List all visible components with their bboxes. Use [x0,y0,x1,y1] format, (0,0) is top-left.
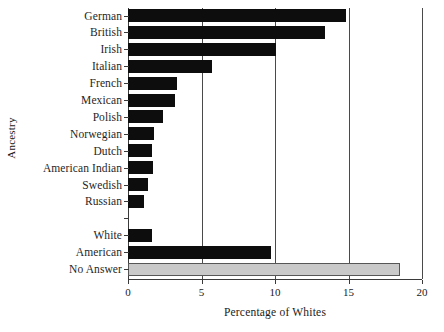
y-tick-mark [124,201,129,202]
y-tick-mark [124,83,129,84]
bar [128,229,152,242]
bar [128,110,163,123]
category-label: Dutch [0,145,122,157]
bar [128,161,153,174]
category-label: Italian [0,60,122,72]
y-tick-mark [124,16,129,17]
x-tick-label: 0 [113,286,143,298]
y-tick-mark [124,252,129,253]
category-label: German [0,10,122,22]
category-label: American [0,246,122,258]
gridline [422,8,423,279]
bar [128,144,152,157]
bar [128,94,175,107]
bar [128,246,271,259]
bar [128,43,276,56]
bar [128,60,212,73]
category-label: Polish [0,111,122,123]
y-tick-mark [124,235,129,236]
x-tick-mark [422,280,423,284]
x-tick-mark [128,280,129,284]
category-label: Swedish [0,179,122,191]
category-label: No Answer [0,263,122,275]
bar [128,127,154,140]
bar [128,26,325,39]
x-tick-label: 10 [260,286,290,298]
y-tick-mark [124,49,129,50]
category-label: Russian [0,195,122,207]
x-tick-label: 20 [407,286,437,298]
y-tick-mark [124,100,129,101]
category-label: Mexican [0,94,122,106]
y-tick-mark [124,117,129,118]
gridline [349,8,350,279]
x-tick-mark [275,280,276,284]
category-label: British [0,26,122,38]
bar [128,263,400,276]
y-tick-mark [124,66,129,67]
x-tick-label: 5 [187,286,217,298]
y-tick-mark [124,32,129,33]
x-axis-title: Percentage of Whites [128,306,422,318]
category-label: Irish [0,43,122,55]
bar [128,178,148,191]
y-tick-mark [124,134,129,135]
category-label: White [0,229,122,241]
y-tick-mark [124,269,129,270]
category-label: Norwegian [0,128,122,140]
bar-chart: Ancestry 05101520 GermanBritishIrishItal… [0,0,444,332]
y-tick-mark [124,185,129,186]
y-tick-mark [124,168,129,169]
x-tick-mark [349,280,350,284]
x-tick-label: 15 [334,286,364,298]
bar [128,77,177,90]
y-tick-mark [124,151,129,152]
x-tick-mark [202,280,203,284]
category-label: French [0,77,122,89]
y-tick-mark [124,218,129,219]
bar [128,195,144,208]
bar [128,9,346,22]
category-label: American Indian [0,162,122,174]
